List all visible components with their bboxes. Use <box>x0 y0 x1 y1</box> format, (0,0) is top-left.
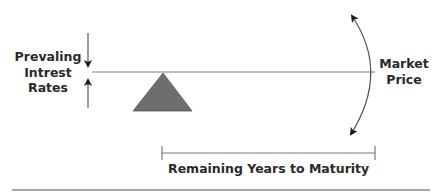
market-price-label: Market Price <box>378 56 430 87</box>
interest-rates-label: Prevaling Intrest Rates <box>14 49 82 96</box>
fulcrum-triangle <box>133 73 192 111</box>
price-arc-icon <box>351 16 371 134</box>
maturity-range <box>162 146 375 160</box>
maturity-label: Remaining Years to Maturity <box>168 161 368 177</box>
